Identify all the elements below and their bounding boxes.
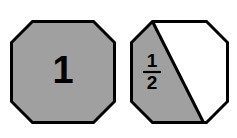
octagon-half-label-numerator: 1: [147, 50, 158, 71]
octagon-whole-label: 1: [52, 49, 73, 91]
fraction-shapes-illustration: 1 1 2: [0, 0, 237, 138]
octagon-half: 1 2: [132, 22, 228, 123]
figure-canvas: 1 1 2: [0, 0, 237, 138]
octagon-whole: 1: [12, 22, 115, 123]
octagon-half-label-denominator: 2: [147, 72, 158, 93]
